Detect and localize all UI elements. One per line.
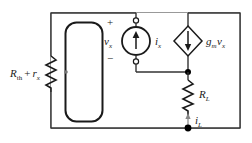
- test-current-label: ix: [155, 35, 162, 50]
- thevenin-operator: +: [24, 67, 30, 79]
- thevenin-r-subscript: th: [17, 74, 23, 82]
- load-resistor: [183, 80, 193, 118]
- thevenin-label: Rth+rx: [9, 67, 41, 82]
- load-current-arrow-head: [185, 113, 190, 119]
- thevenin-r2-subscript: x: [36, 74, 41, 82]
- polarity-plus-label: +: [107, 16, 113, 28]
- test-voltage-subscript: x: [108, 42, 113, 50]
- polarity-minus-label: −: [107, 52, 113, 64]
- loop-contact-dot: [64, 70, 68, 74]
- dep-gain-subscript: m: [212, 42, 217, 50]
- circuit-schematic-canvas: Rth+rx + vx − ix gmvx RL iL: [0, 0, 252, 143]
- test-voltage-label: vx: [104, 35, 113, 50]
- circuit-figure: Rth+rx + vx − ix gmvx RL iL: [0, 0, 252, 143]
- test-current-subscript: x: [157, 42, 162, 50]
- source-terminal-top: [133, 18, 138, 23]
- node-bottom: [185, 125, 192, 132]
- load-resistor-label: RL: [198, 88, 210, 103]
- load-current-label: iL: [195, 114, 202, 129]
- input-loop: [66, 23, 103, 122]
- load-resistor-subscript: L: [205, 95, 210, 103]
- dependent-source-label: gmvx: [206, 35, 226, 50]
- source-terminal-bottom: [133, 59, 138, 64]
- dep-control-subscript: x: [221, 42, 226, 50]
- load-current-subscript: L: [197, 121, 202, 129]
